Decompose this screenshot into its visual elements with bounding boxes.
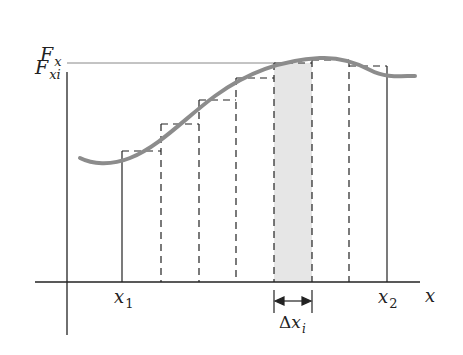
x1-label: x1	[114, 286, 133, 311]
delta-xi-label: Δxi	[279, 312, 306, 336]
delta-xi-arrow	[274, 290, 312, 313]
work-integral-diagram: Fx Fxi x1 x2 x Δxi	[0, 0, 463, 355]
x-axis-label: x	[425, 285, 435, 306]
force-curve	[80, 58, 415, 163]
dashed-rectangle-sides	[161, 60, 349, 282]
x2-label: x2	[378, 286, 397, 311]
shaded-strip-delta-xi	[274, 63, 312, 282]
